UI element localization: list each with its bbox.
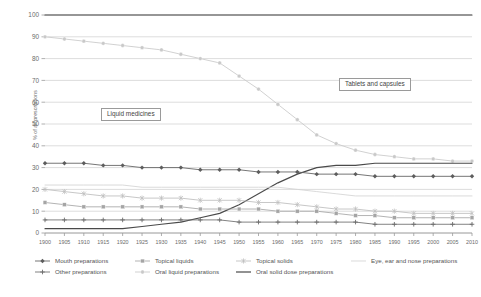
legend-item[interactable]: Other preparations	[34, 266, 134, 277]
x-tick-label: 1950	[233, 239, 245, 245]
x-tick-label: 1930	[156, 239, 168, 245]
y-tick-label: 20	[32, 186, 40, 193]
legend-label: Mouth preparations	[55, 257, 108, 264]
data-point-marker	[140, 165, 144, 169]
data-point-marker	[121, 205, 125, 209]
data-point-marker	[62, 161, 66, 165]
data-point-marker	[450, 222, 455, 227]
x-tick-label: 1905	[58, 239, 70, 245]
legend-item[interactable]: Eye, ear and nose preparations	[350, 255, 464, 266]
data-point-marker	[315, 172, 319, 176]
data-point-marker	[276, 209, 280, 213]
legend-item[interactable]: Topical liquids	[134, 255, 235, 266]
legend-label: Oral solid dose preparations	[256, 268, 333, 275]
x-tick-label: 1940	[194, 239, 206, 245]
data-point-marker	[334, 172, 338, 176]
data-point-marker	[392, 216, 396, 220]
data-point-marker	[412, 216, 416, 220]
data-point-marker	[141, 259, 145, 263]
y-tick-label: 90	[32, 33, 40, 40]
data-point-marker	[431, 222, 436, 227]
data-point-marker	[82, 39, 86, 43]
data-point-marker	[101, 163, 105, 167]
data-point-marker	[140, 218, 145, 223]
data-point-marker	[82, 205, 86, 209]
data-point-marker	[256, 170, 260, 174]
data-point-marker	[450, 174, 454, 178]
chart-container: % of all prescriptions 01020304050607080…	[0, 0, 481, 297]
x-tick-label: 1965	[291, 239, 303, 245]
legend-item[interactable]: Oral liquid preparations	[134, 266, 235, 277]
data-point-marker	[40, 258, 44, 262]
data-point-marker	[160, 205, 164, 209]
x-tick-label: 1955	[253, 239, 265, 245]
data-point-marker	[198, 207, 202, 211]
data-point-marker	[431, 157, 435, 161]
series-line	[45, 37, 472, 161]
data-series	[43, 15, 475, 229]
x-tick-label: 1925	[136, 239, 148, 245]
data-point-marker	[179, 205, 183, 209]
data-point-marker	[120, 163, 124, 167]
series-oral-liquid-preparations	[43, 35, 474, 163]
series-topical-solids	[43, 187, 474, 216]
legend-item[interactable]: Oral solid dose preparations	[235, 266, 350, 277]
data-point-marker	[159, 218, 164, 223]
x-tick-label: 1915	[97, 239, 109, 245]
x-tick-label: 2010	[466, 239, 478, 245]
data-point-marker	[101, 205, 105, 209]
data-point-marker	[354, 214, 358, 218]
data-point-marker	[470, 216, 474, 220]
data-point-marker	[392, 222, 397, 227]
data-point-marker	[63, 37, 67, 41]
legend-label: Eye, ear and nose preparations	[371, 257, 457, 264]
data-point-marker	[373, 214, 377, 218]
data-point-marker	[218, 207, 222, 211]
chart-legend: Mouth preparationsTopical liquidsTopical…	[34, 255, 464, 277]
data-point-marker	[276, 220, 281, 225]
y-tick-label: 50	[32, 120, 40, 127]
legend-label: Topical liquids	[155, 257, 194, 264]
y-tick-label: 40	[32, 142, 40, 149]
data-point-marker	[120, 218, 125, 223]
legend-marker-diamond-icon	[34, 256, 51, 266]
data-point-marker	[392, 174, 396, 178]
data-point-marker	[314, 220, 319, 225]
x-tick-label: 1970	[311, 239, 323, 245]
data-point-marker	[218, 61, 222, 65]
data-point-marker	[334, 220, 339, 225]
x-axis-ticks: 1900190519101915192019251930193519401945…	[39, 233, 478, 245]
data-point-marker	[40, 269, 45, 274]
x-tick-label: 1910	[78, 239, 90, 245]
data-point-marker	[141, 270, 145, 274]
data-point-marker	[412, 157, 416, 161]
data-point-marker	[101, 41, 105, 45]
data-point-marker	[217, 218, 222, 223]
y-tick-label: 30	[32, 164, 40, 171]
legend-marker-circle-icon	[134, 267, 151, 277]
data-point-marker	[470, 159, 474, 163]
data-point-marker	[43, 161, 47, 165]
data-point-marker	[179, 52, 183, 56]
data-point-marker	[160, 48, 164, 52]
data-point-marker	[82, 218, 87, 223]
x-tick-label: 1985	[369, 239, 381, 245]
legend-item[interactable]: Mouth preparations	[34, 255, 134, 266]
data-point-marker	[198, 57, 202, 61]
y-axis-ticks: 0102030405060708090100	[28, 11, 45, 236]
legend-item[interactable]: Topical solids	[235, 255, 350, 266]
data-point-marker	[373, 153, 377, 157]
data-point-marker	[334, 142, 338, 146]
x-tick-label: 1935	[175, 239, 187, 245]
legend-marker-star-icon	[235, 256, 252, 266]
y-tick-label: 60	[32, 99, 40, 106]
callout-liquid-medicines: Liquid medicines	[101, 108, 161, 121]
chart-plot: 0102030405060708090100 19001905191019151…	[0, 0, 481, 297]
data-point-marker	[412, 174, 416, 178]
y-tick-label: 0	[35, 229, 39, 236]
x-tick-label: 2005	[447, 239, 459, 245]
x-tick-label: 1980	[350, 239, 362, 245]
data-point-marker	[257, 207, 261, 211]
data-point-marker	[43, 35, 47, 39]
data-point-marker	[353, 172, 357, 176]
